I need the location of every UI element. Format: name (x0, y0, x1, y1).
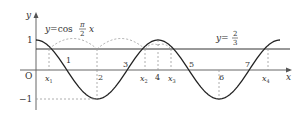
svg-text:1: 1 (66, 56, 71, 65)
diagram: y x O 1 −1 y=cos π 2 x y= 2 3 1 2 3 4 5 … (0, 0, 300, 116)
svg-text:7: 7 (245, 60, 250, 69)
curve-label: y=cos (44, 24, 73, 34)
svg-text:x3: x3 (168, 74, 176, 84)
svg-text:x4: x4 (262, 74, 270, 84)
line-label: y= (215, 33, 229, 43)
svg-text:6: 6 (219, 73, 224, 82)
dashed-guides (36, 39, 268, 100)
curve-label-x: x (89, 24, 94, 34)
curve-frac-num: π (79, 21, 85, 29)
svg-text:3: 3 (123, 60, 128, 69)
origin-label: O (25, 71, 32, 81)
svg-text:5: 5 (189, 60, 194, 69)
svg-text:4: 4 (155, 73, 160, 82)
line-frac-den: 3 (233, 39, 237, 47)
y-axis-label: y (25, 10, 32, 20)
y-axis-arrow-icon (34, 12, 39, 18)
curve-frac-den: 2 (80, 30, 84, 38)
svg-text:x2: x2 (140, 74, 148, 84)
y-tick-1: 1 (27, 35, 33, 45)
svg-text:x1: x1 (45, 74, 53, 84)
svg-text:2: 2 (98, 73, 103, 82)
y-tick-neg1: −1 (19, 94, 32, 104)
x-axis-label: x (286, 72, 291, 82)
line-frac-num: 2 (233, 30, 237, 38)
